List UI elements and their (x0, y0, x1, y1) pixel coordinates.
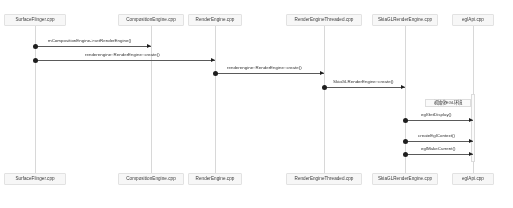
participant-footer-skiaglrenderengine-footer[interactable]: SkiaGLRenderEngine.cpp (372, 173, 438, 185)
message-label-m4: SkiaGLRenderEngine::create() (333, 80, 394, 84)
message-line-m3 (215, 73, 324, 74)
participant-footer-eglapi-footer[interactable]: eglApi.cpp (452, 173, 494, 185)
participant-header-renderengine[interactable]: RenderEngine.cpp (188, 14, 242, 26)
message-arrowhead-m3 (320, 71, 324, 75)
message-line-m6 (405, 141, 473, 142)
message-label-m6: createEglContext() (418, 134, 455, 138)
note-note-egl-init[interactable]: 初始化EGL环境 (425, 99, 471, 107)
participant-header-renderenginethreaded[interactable]: RenderEngineThreaded.cpp (286, 14, 362, 26)
message-arrowhead-m4 (401, 85, 405, 89)
message-origin-dot-m1 (33, 44, 38, 49)
message-line-m4 (324, 87, 405, 88)
message-label-m1: mCompositionEngine->setRenderEngine() (48, 39, 131, 43)
message-line-m2 (35, 60, 215, 61)
message-origin-dot-m7 (403, 152, 408, 157)
participant-footer-compositionengine-footer[interactable]: CompositionEngine.cpp (118, 173, 184, 185)
message-arrowhead-m5 (469, 118, 473, 122)
message-arrowhead-m6 (469, 139, 473, 143)
lifeline-renderengine (215, 26, 216, 173)
participant-header-eglapi[interactable]: eglApi.cpp (452, 14, 494, 26)
sequence-diagram-canvas: SurfaceFlinger.cppCompositionEngine.cppR… (0, 0, 513, 208)
participant-header-surfaceflinger[interactable]: SurfaceFlinger.cpp (4, 14, 66, 26)
lifeline-skiaglrenderengine (405, 26, 406, 173)
participant-footer-renderengine-footer[interactable]: RenderEngine.cpp (188, 173, 242, 185)
message-label-m5: eglGetDisplay() (421, 113, 452, 117)
message-origin-dot-m3 (213, 71, 218, 76)
message-origin-dot-m6 (403, 139, 408, 144)
message-arrowhead-m7 (469, 152, 473, 156)
message-line-m7 (405, 154, 473, 155)
message-origin-dot-m4 (322, 85, 327, 90)
message-arrowhead-m1 (147, 44, 151, 48)
message-origin-dot-m5 (403, 118, 408, 123)
message-arrowhead-m2 (211, 58, 215, 62)
participant-footer-renderenginethreaded-footer[interactable]: RenderEngineThreaded.cpp (286, 173, 362, 185)
lifeline-renderenginethreaded (324, 26, 325, 173)
message-label-m2: renderengine::RenderEngine::create() (85, 53, 160, 57)
message-origin-dot-m2 (33, 58, 38, 63)
participant-header-skiaglrenderengine[interactable]: SkiaGLRenderEngine.cpp (372, 14, 438, 26)
message-label-m7: eglMakeCurrent() (421, 147, 455, 151)
message-label-m3: renderengine::RenderEngine::create() (227, 66, 302, 70)
message-line-m5 (405, 120, 473, 121)
message-line-m1 (35, 46, 151, 47)
participant-footer-surfaceflinger-footer[interactable]: SurfaceFlinger.cpp (4, 173, 66, 185)
participant-header-compositionengine[interactable]: CompositionEngine.cpp (118, 14, 184, 26)
